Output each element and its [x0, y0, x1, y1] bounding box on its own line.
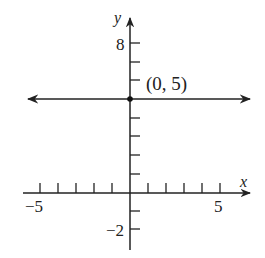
- y-axis-label: y: [112, 9, 122, 27]
- y-ticks: [130, 43, 140, 229]
- coordinate-plane: (0, 5) y x 8 −2 −5 5: [0, 0, 265, 258]
- x-axis-label: x: [239, 173, 247, 190]
- y-tick-label-8: 8: [116, 35, 125, 54]
- y-tick-label-neg2: −2: [106, 221, 124, 240]
- x-tick-label-neg5: −5: [25, 197, 43, 216]
- point-label: (0, 5): [146, 73, 187, 95]
- x-tick-label-5: 5: [214, 197, 223, 216]
- point-marker: [127, 96, 133, 102]
